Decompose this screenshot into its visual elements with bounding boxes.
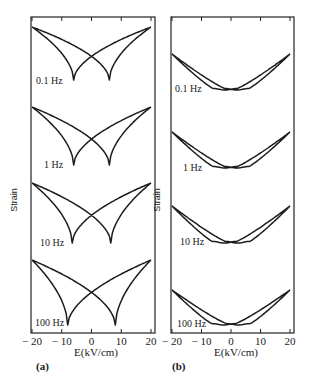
panel-a-x-axis-label: E(kV/cm) [74,346,118,359]
frequency-label: 0.1 Hz [175,83,202,94]
frequency-label: 1 Hz [183,162,203,173]
panel-a-ticks [32,17,151,333]
panel-b-label: (b) [172,360,186,373]
panel-b-y-axis-label: Strain [152,188,162,212]
figure: 0.1 Hz1 Hz10 Hz100 Hz − 20− 1001020 E(kV… [0,0,310,387]
x-tick-label: − 20 [162,335,182,347]
x-tick-label: − 10 [192,335,212,347]
frequency-label: 10 Hz [40,237,65,248]
panel-b-curves [172,54,290,325]
strain-curve-100Hz [32,260,151,325]
frequency-label: 0.1 Hz [36,75,63,86]
strain-curve-01Hz [32,27,151,80]
panel-a-frame [31,17,155,333]
panel-b-frequency-labels: 0.1 Hz1 Hz10 Hz100 Hz [175,83,207,329]
panel-a-curves [32,27,151,325]
strain-curve-1Hz [32,107,151,165]
panel-a-y-axis-label: Strain [9,188,19,212]
panel-a: 0.1 Hz1 Hz10 Hz100 Hz − 20− 1001020 E(kV… [9,17,157,373]
x-tick-label: − 20 [22,335,42,347]
x-tick-label: 20 [285,335,297,347]
panel-b-x-axis-label: E(kV/cm) [214,346,258,359]
panel-b-ticks [172,17,290,333]
x-tick-label: − 10 [52,335,72,347]
x-tick-label: 20 [146,335,158,347]
frequency-label: 100 Hz [35,317,65,328]
frequency-label: 10 Hz [180,236,205,247]
panel-b: 0.1 Hz1 Hz10 Hz100 Hz − 20− 1001020 E(kV… [152,17,296,373]
frequency-label: 100 Hz [177,318,207,329]
panel-a-label: (a) [36,360,49,373]
strain-curve-10Hz [32,183,151,243]
frequency-label: 1 Hz [44,159,64,170]
